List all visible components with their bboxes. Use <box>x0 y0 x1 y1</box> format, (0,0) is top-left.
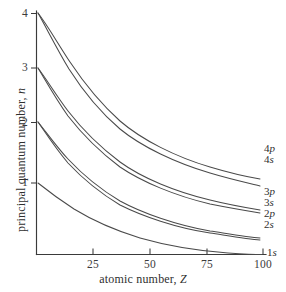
curve-2s <box>38 122 260 240</box>
y-tick-label-3: 3 <box>12 61 28 73</box>
plot-area <box>0 0 286 292</box>
curve-label-2s-symbol: s <box>270 218 274 230</box>
y-axis-title-symbol: n <box>14 88 28 94</box>
curve-4s <box>38 13 260 186</box>
x-axis-title-text: atomic number, <box>99 272 177 286</box>
curve-label-1s: 1s <box>267 246 277 258</box>
curve-label-1s-symbol: s <box>273 246 277 258</box>
figure-container: 4 3 2 1 25 50 75 100 4p 4s 3p 3s 2p 2s 1… <box>0 0 286 292</box>
curve-4p <box>38 13 260 179</box>
curve-3p <box>38 68 260 210</box>
x-tick-label-75: 75 <box>189 258 225 270</box>
curve-1s <box>38 183 262 255</box>
x-tick-label-25: 25 <box>75 258 111 270</box>
x-tick-label-100: 100 <box>245 258 281 270</box>
curve-label-4s: 4s <box>264 153 274 165</box>
curve-label-4s-symbol: s <box>270 153 274 165</box>
x-axis-title-symbol: Z <box>180 272 187 286</box>
y-axis-title-text: principal quantum number, <box>14 97 28 232</box>
y-tick-label-4: 4 <box>12 7 28 19</box>
curve-3s <box>38 68 260 213</box>
y-ticks-group <box>31 14 37 184</box>
x-tick-label-50: 50 <box>132 258 168 270</box>
curve-label-2s: 2s <box>264 218 274 230</box>
y-axis-title: principal quantum number, n <box>14 88 29 232</box>
x-axis-title: atomic number, Z <box>0 272 286 287</box>
curve-2p <box>38 122 260 238</box>
curves-group <box>38 13 262 255</box>
